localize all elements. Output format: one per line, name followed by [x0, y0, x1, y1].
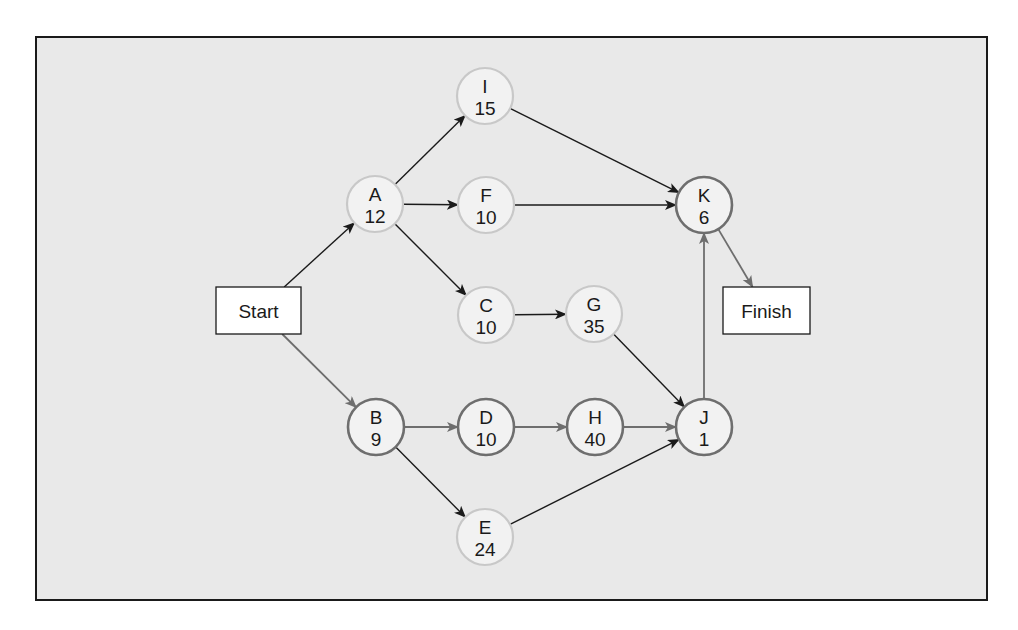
node-letter: G — [587, 294, 602, 315]
node-letter: E — [479, 517, 492, 538]
node-duration: 10 — [475, 429, 496, 450]
edge-start-to-a — [284, 223, 354, 287]
start-box[interactable]: Start — [216, 287, 301, 334]
nodes-layer: StartFinishA12I15F10C10G35K6B9D10H40J1E2… — [216, 68, 810, 565]
node-letter: A — [369, 184, 382, 205]
network-diagram: StartFinishA12I15F10C10G35K6B9D10H40J1E2… — [0, 0, 1018, 630]
node-duration: 10 — [475, 317, 496, 338]
activity-node-g[interactable]: G35 — [566, 286, 622, 342]
node-duration: 15 — [474, 98, 495, 119]
node-duration: 12 — [364, 206, 385, 227]
node-letter: H — [588, 407, 602, 428]
edge-k-to-finish — [718, 229, 752, 287]
node-duration: 9 — [371, 429, 382, 450]
node-letter: K — [698, 185, 711, 206]
activity-node-a[interactable]: A12 — [347, 176, 403, 232]
node-duration: 1 — [699, 429, 710, 450]
edge-start-to-b — [282, 334, 356, 407]
edge-a-to-i — [395, 116, 465, 185]
node-letter: C — [479, 295, 493, 316]
activity-node-k[interactable]: K6 — [676, 177, 732, 233]
edges-layer — [282, 108, 752, 524]
activity-node-b[interactable]: B9 — [348, 399, 404, 455]
edge-b-to-e — [396, 447, 466, 517]
activity-node-d[interactable]: D10 — [458, 399, 514, 455]
activity-node-e[interactable]: E24 — [457, 509, 513, 565]
node-letter: D — [479, 407, 493, 428]
start-label: Start — [238, 301, 279, 322]
finish-label: Finish — [741, 301, 792, 322]
edge-a-to-c — [395, 224, 466, 295]
node-letter: J — [699, 407, 709, 428]
node-duration: 24 — [474, 539, 496, 560]
activity-node-c[interactable]: C10 — [458, 287, 514, 343]
node-duration: 40 — [584, 429, 605, 450]
node-duration: 10 — [475, 207, 496, 228]
activity-node-f[interactable]: F10 — [458, 177, 514, 233]
activity-node-i[interactable]: I15 — [457, 68, 513, 124]
edge-i-to-k — [510, 108, 679, 192]
node-letter: F — [480, 185, 492, 206]
node-duration: 35 — [583, 316, 604, 337]
edge-g-to-j — [614, 334, 685, 407]
activity-node-h[interactable]: H40 — [567, 399, 623, 455]
node-duration: 6 — [699, 207, 710, 228]
node-letter: I — [482, 76, 487, 97]
finish-box[interactable]: Finish — [723, 287, 810, 334]
node-letter: B — [370, 407, 383, 428]
activity-node-j[interactable]: J1 — [676, 399, 732, 455]
